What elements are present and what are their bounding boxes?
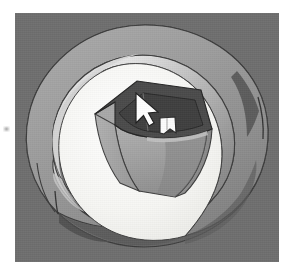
- screenshot-root: [0, 0, 288, 275]
- viewport-3d[interactable]: [15, 13, 279, 262]
- scan-edge-mark: [3, 126, 10, 132]
- viewport-canvas[interactable]: [15, 13, 279, 262]
